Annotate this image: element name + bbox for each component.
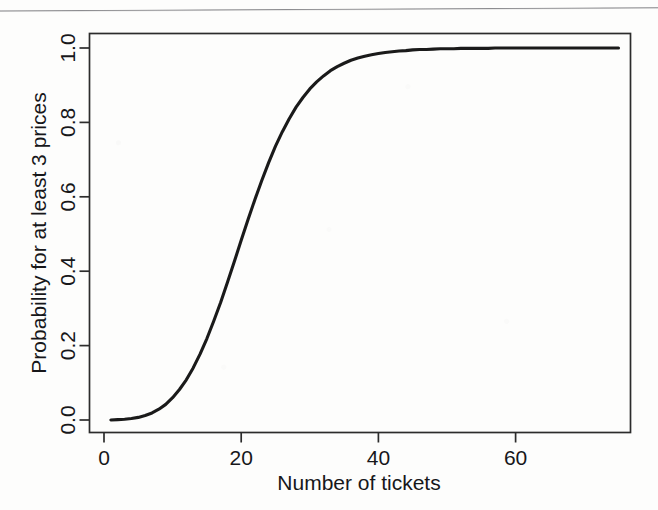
probability-curve — [111, 48, 619, 420]
y-axis-tick-label: 0.0 — [56, 405, 79, 434]
y-axis-title: Probability for at least 3 prices — [27, 92, 50, 373]
y-axis-tick-group — [80, 48, 90, 420]
y-axis-tick-labels: 0.00.20.40.60.81.0 — [56, 33, 79, 434]
probability-line-chart: 0.00.20.40.60.81.0 0204060 Number of tic… — [0, 0, 658, 510]
plot-frame-box — [90, 34, 631, 433]
x-axis-tick-group — [104, 433, 516, 443]
scanned-page: 0.00.20.40.60.81.0 0204060 Number of tic… — [0, 0, 658, 510]
x-axis-tick-label: 0 — [98, 446, 110, 469]
y-axis-tick-label: 0.2 — [56, 331, 79, 360]
y-axis-tick-label: 0.4 — [56, 256, 79, 286]
x-axis-tick-label: 40 — [367, 446, 390, 469]
y-axis-tick-label: 0.8 — [56, 108, 79, 137]
x-axis-tick-label: 20 — [230, 446, 253, 469]
x-axis-tick-label: 60 — [504, 446, 527, 469]
x-axis-tick-labels: 0204060 — [98, 446, 527, 469]
y-axis-tick-label: 0.6 — [56, 182, 79, 211]
x-axis-title: Number of tickets — [277, 471, 440, 494]
y-axis-tick-label: 1.0 — [56, 33, 79, 62]
